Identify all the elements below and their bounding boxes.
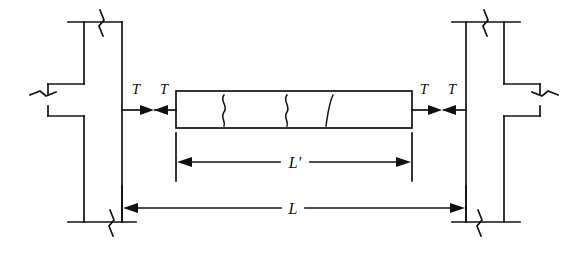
force-label-right-outer: T — [448, 81, 458, 97]
force-label-right-inner: T — [420, 81, 430, 97]
break-symbol-icon-left-bottom — [109, 210, 114, 236]
diagram-canvas: T T T T L′ L — [0, 0, 586, 256]
arrowhead-left-outer — [140, 105, 154, 115]
arrowhead-right-outer — [442, 105, 456, 115]
arrowhead-clear-span-right — [396, 157, 411, 167]
break-symbol-icon-left-haunch — [30, 91, 56, 96]
arrowhead-full-span-right — [450, 203, 465, 213]
force-label-left-outer: T — [132, 81, 142, 97]
break-symbol-icon-right-haunch — [532, 91, 558, 96]
arrowhead-clear-span-left — [177, 157, 192, 167]
force-label-left-inner: T — [160, 81, 170, 97]
structural-diagram: T T T T L′ L — [0, 0, 586, 256]
break-symbol-icon-right-top — [483, 10, 488, 36]
arrowhead-full-span-left — [123, 203, 138, 213]
break-symbol-icon-left-top — [99, 10, 104, 36]
cracked-beam — [176, 91, 412, 128]
dimension-label-clear-span: L′ — [288, 154, 302, 171]
arrowhead-right-inner — [428, 105, 442, 115]
arrowhead-left-inner — [154, 105, 168, 115]
beam-crack-1 — [223, 95, 226, 126]
beam-crack-3 — [326, 95, 333, 126]
dimension-label-full-span: L — [288, 200, 298, 217]
beam-crack-2 — [285, 95, 288, 126]
break-symbol-icon-right-bottom — [477, 210, 482, 236]
